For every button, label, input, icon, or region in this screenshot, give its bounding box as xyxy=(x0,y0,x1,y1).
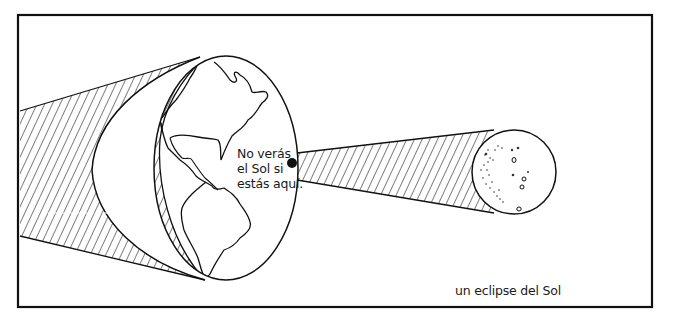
earth-label-line-1: No verás xyxy=(237,146,303,161)
earth-observer-label: No verás el Sol si estás aquí. xyxy=(237,146,303,191)
earth-label-line-2: el Sol si xyxy=(237,161,303,176)
diagram-caption: un eclipse del Sol xyxy=(455,283,561,298)
moon xyxy=(472,130,556,214)
solar-eclipse-diagram xyxy=(0,0,677,328)
earth-label-line-3: estás aquí. xyxy=(237,176,303,191)
